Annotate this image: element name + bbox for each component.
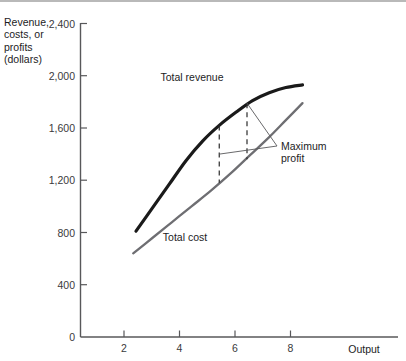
y-tick-label-2000: 2,000 [49, 70, 75, 82]
plot-area: 2,400 2,000 1,600 1,200 800 400 0 2 4 6 … [0, 2, 406, 361]
series-label-total-revenue: Total revenue [160, 71, 223, 83]
y-tick-label-400: 400 [57, 279, 75, 291]
y-tick-label-1200: 1,200 [49, 174, 75, 186]
x-tick-label-8: 8 [288, 342, 294, 354]
maximum-profit-leader-line-1 [247, 103, 277, 146]
x-tick-label-6: 6 [232, 342, 238, 354]
series-total-revenue [136, 85, 303, 231]
y-tick-label-800: 800 [57, 227, 75, 239]
y-tick-label-1600: 1,600 [49, 122, 75, 134]
y-tick-label-0: 0 [69, 331, 75, 343]
x-axis-title: Output [348, 343, 380, 355]
maximum-profit-label-line-1: Maximum [281, 140, 327, 152]
y-tick-label-2400: 2,400 [49, 18, 75, 30]
maximum-profit-leader-line-2 [219, 146, 277, 154]
x-tick-label-2: 2 [121, 342, 127, 354]
series-label-total-cost: Total cost [163, 231, 207, 243]
x-tick-label-4: 4 [177, 342, 183, 354]
maximum-profit-label-line-2: profit [281, 152, 304, 164]
chart-figure: Revenue, costs, or profits (dollars) 2,4… [0, 0, 406, 361]
